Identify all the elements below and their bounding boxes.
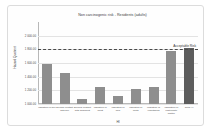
x-axis-tick-label: Ingestion of milk [109,106,127,112]
y-axis-title: Hazard Quotient [13,36,20,80]
chart-title: Non carcinogenic risk - Residents (adult… [28,13,197,21]
gridline [38,36,198,37]
bar [184,48,194,104]
x-axis-tick-label: Dermal contact with soil [56,106,74,112]
chart-figure: Non carcinogenic risk - Residents (adult… [8,6,203,125]
x-axis-tick-label: Dermal contact with sediment [74,106,92,112]
x-axis-tick-label: Ingestion of meat [91,106,109,112]
bar [95,87,105,104]
bar [60,73,70,104]
x-axis-tick-label: Ingestion of vegetables [145,106,163,112]
bar [131,89,141,104]
bar [166,51,176,104]
x-axis-title: HI [38,120,198,124]
bar [113,96,123,104]
plot-area: 1 000.001 200.001 400.001 600.001 800.00… [38,22,198,104]
bar [77,99,87,104]
y-axis-tick-label: 2 000.00 [25,34,36,38]
acceptable-risk-threshold-line [38,49,198,50]
x-axis-tick-label: Total HI [180,106,198,109]
x-axis-tick-label: Ingestion of soil [38,106,56,109]
bar [42,64,52,104]
chart-card: Non carcinogenic risk - Residents (adult… [7,5,204,126]
x-axis-tick-label: Inhalation of particulate matter [162,106,180,115]
gridline [38,104,198,105]
acceptable-risk-label: Acceptable Risk [173,44,196,48]
y-axis-tick-label: 1 200.00 [25,88,36,92]
y-axis-tick-label: 1 400.00 [25,75,36,79]
y-axis-tick-label: 1 600.00 [25,61,36,65]
y-axis-tick-label: 1 800.00 [25,47,36,51]
bar [149,87,159,104]
x-axis-tick-label: Ingestion of fruits [127,106,145,112]
y-axis-tick-label: 1 000.00 [25,102,36,106]
